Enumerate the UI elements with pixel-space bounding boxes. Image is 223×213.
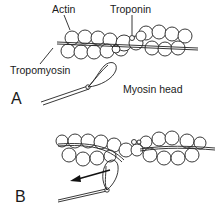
label-troponin: Troponin <box>110 3 151 15</box>
label-tropomyosin: Tropomyosin <box>10 64 70 76</box>
tropomyosin-leader-line <box>40 48 53 64</box>
panel-label-a: A <box>11 90 22 107</box>
troponin-b <box>132 140 137 145</box>
troponin-a <box>130 36 135 41</box>
panel-b <box>56 131 215 202</box>
label-actin: Actin <box>52 3 76 15</box>
actin-filament-a <box>61 25 192 59</box>
actin-myosin-diagram: Actin Troponin Tropomyosin Myosin head A… <box>0 0 223 213</box>
actin-leader-line <box>64 15 70 30</box>
label-myosin-head: Myosin head <box>123 83 183 95</box>
myosin-head-b <box>58 160 118 202</box>
troponin-b-2 <box>137 140 141 144</box>
panel-label-b: B <box>15 188 26 205</box>
power-stroke-arrow <box>70 170 110 182</box>
